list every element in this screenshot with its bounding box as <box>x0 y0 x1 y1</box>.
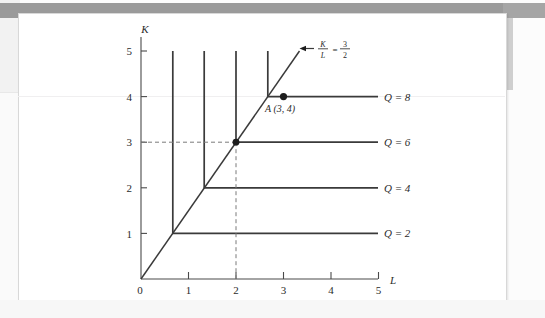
isoquant-plot: 1 2 3 4 5 0 1 2 3 4 5 K L <box>18 13 505 303</box>
slope-denominator-value: 2 <box>343 51 347 60</box>
page-top-shadow-right <box>503 3 545 18</box>
isoquant-label-q8: Q = 8 <box>384 91 411 103</box>
ray-annotation-arrow-head <box>300 46 307 51</box>
x-axis-label: L <box>389 274 396 286</box>
isoquant-q4 <box>204 51 378 188</box>
x-tick-label-1: 1 <box>186 284 192 296</box>
isoquant-figure: 1 2 3 4 5 0 1 2 3 4 5 K L <box>18 13 505 303</box>
y-tick-label-2: 2 <box>127 182 133 194</box>
figure-screenshot: 1 2 3 4 5 0 1 2 3 4 5 K L <box>0 0 545 318</box>
isoquant-label-q4: Q = 4 <box>384 182 411 194</box>
x-tick-label-4: 4 <box>328 284 334 296</box>
point-marker-q6-corner <box>233 139 240 146</box>
y-tick-label-1: 1 <box>127 228 133 240</box>
y-tick-label-3: 3 <box>127 136 133 148</box>
y-tick-label-5: 5 <box>127 45 133 57</box>
slope-numerator-value: 3 <box>343 40 347 49</box>
x-tick-label-3: 3 <box>281 284 287 296</box>
ray-slope-label: K L = 3 2 <box>318 40 350 60</box>
y-tick-label-4: 4 <box>127 91 133 103</box>
slope-equals-sign: = <box>332 45 337 55</box>
scan-left-margin-lower <box>0 92 20 318</box>
x-tick-label-5: 5 <box>376 284 382 296</box>
isoquant-label-q6: Q = 6 <box>384 136 411 148</box>
expansion-path-ray <box>141 51 300 279</box>
x-tick-label-2: 2 <box>233 284 239 296</box>
point-label-a: A (3, 4) <box>264 103 296 115</box>
isoquant-label-q2: Q = 2 <box>384 227 411 239</box>
slope-numerator-variable: K <box>319 40 326 49</box>
point-marker-a <box>280 93 287 100</box>
y-axis-label: K <box>140 23 149 35</box>
x-tick-label-0: 0 <box>137 284 143 296</box>
slope-denominator-variable: L <box>320 51 326 60</box>
